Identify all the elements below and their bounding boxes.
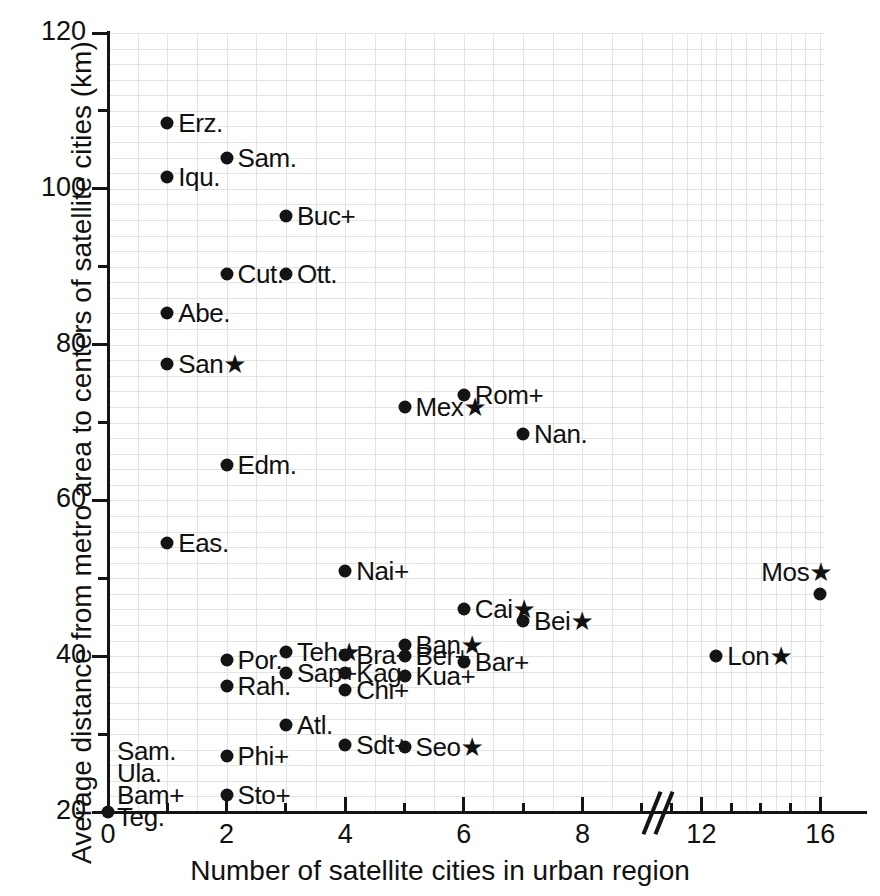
grid-line-horizontal [108, 454, 824, 455]
grid-line-horizontal [108, 49, 824, 50]
data-point-label: Nan. [534, 419, 587, 450]
grid-line-horizontal [108, 563, 824, 564]
data-point-label: Cut. [238, 259, 284, 290]
data-point[interactable] [517, 615, 530, 628]
data-point[interactable] [339, 564, 352, 577]
data-point[interactable] [279, 210, 292, 223]
data-point[interactable] [339, 684, 352, 697]
x-tick-major [344, 797, 347, 812]
x-tick-major [581, 797, 584, 812]
scatter-chart: Erz.Sam.Iqu.Buc+Cut.Ott.Abe.San★Rom+Mex★… [0, 0, 880, 896]
data-point[interactable] [220, 749, 233, 762]
data-point[interactable] [339, 667, 352, 680]
x-tick-minor [284, 803, 287, 812]
grid-lines [108, 33, 824, 812]
x-tick-label: 6 [424, 819, 504, 850]
x-tick-minor [789, 803, 792, 812]
x-axis-line [107, 811, 867, 814]
grid-line-horizontal [108, 282, 824, 283]
data-point[interactable] [220, 654, 233, 667]
data-point[interactable] [339, 739, 352, 752]
grid-line-horizontal [108, 625, 824, 626]
data-point-label: Erz. [178, 107, 223, 138]
y-axis-title: Average distance from metro area to cent… [66, 64, 98, 864]
data-point[interactable] [220, 679, 233, 692]
data-point-label: Iqu. [178, 162, 220, 193]
grid-line-horizontal [108, 594, 824, 595]
x-tick-label: 8 [542, 819, 622, 850]
x-axis-title: Number of satellite cities in urban regi… [0, 855, 880, 887]
y-tick-minor [98, 421, 109, 424]
x-tick-label: 12 [661, 819, 741, 850]
y-tick-minor [98, 733, 109, 736]
y-tick-minor [98, 265, 109, 268]
grid-line-horizontal [108, 33, 824, 34]
data-point-label: Nai+ [356, 555, 409, 586]
x-tick-major [225, 797, 228, 812]
data-point-label: Kua+ [416, 660, 476, 691]
data-point-label: Sam. [238, 142, 297, 173]
data-point[interactable] [161, 537, 174, 550]
data-point[interactable] [220, 268, 233, 281]
data-point-label: Abe. [178, 298, 230, 329]
grid-line-horizontal [108, 251, 824, 252]
data-point[interactable] [814, 587, 827, 600]
data-point-label: Bar+ [475, 647, 529, 678]
grid-line-horizontal [108, 329, 824, 330]
grid-line-horizontal [108, 703, 824, 704]
grid-line-horizontal [108, 796, 824, 797]
x-tick-major [819, 797, 822, 812]
data-point[interactable] [279, 268, 292, 281]
x-tick-label: 2 [187, 819, 267, 850]
x-tick-minor [166, 803, 169, 812]
data-point[interactable] [220, 151, 233, 164]
grid-line-horizontal [108, 578, 824, 579]
grid-line-horizontal [108, 765, 824, 766]
data-point[interactable] [161, 307, 174, 320]
data-point-label: Lon★ [727, 641, 792, 672]
plot-area: Erz.Sam.Iqu.Buc+Cut.Ott.Abe.San★Rom+Mex★… [108, 33, 824, 812]
data-point[interactable] [161, 171, 174, 184]
grid-line-horizontal [108, 516, 824, 517]
grid-line-horizontal [108, 485, 824, 486]
x-tick-label: 4 [305, 819, 385, 850]
data-point[interactable] [398, 740, 411, 753]
data-point-label: Bei★ [534, 606, 593, 637]
grid-line-horizontal [108, 64, 824, 65]
grid-line-horizontal [108, 158, 824, 159]
data-point-label: Eas. [178, 528, 228, 559]
data-point-label: Rah. [238, 670, 291, 701]
x-tick-major [462, 797, 465, 812]
grid-line-horizontal [108, 204, 824, 205]
data-point[interactable] [161, 358, 174, 371]
grid-line-horizontal [108, 781, 824, 782]
grid-line-horizontal [108, 236, 824, 237]
grid-line-horizontal [108, 345, 824, 346]
data-point-label: Phi+ [238, 740, 289, 771]
grid-line-horizontal [108, 142, 824, 143]
y-tick-major [92, 32, 109, 35]
y-tick-minor [98, 109, 109, 112]
data-point-label: Mex★ [416, 391, 487, 422]
grid-line-horizontal [108, 423, 824, 424]
data-point-label: Ott. [297, 259, 337, 290]
data-point[interactable] [161, 116, 174, 129]
data-point[interactable] [457, 603, 470, 616]
x-tick-minor [759, 803, 762, 812]
data-point-label: Chi+ [356, 675, 409, 706]
data-point-label: Sto+ [238, 779, 291, 810]
data-point[interactable] [279, 718, 292, 731]
x-tick-minor [403, 803, 406, 812]
y-tick-minor [98, 577, 109, 580]
data-point[interactable] [398, 400, 411, 413]
x-tick-minor [670, 803, 673, 812]
x-tick-major [107, 797, 110, 812]
grid-line-horizontal [108, 500, 824, 501]
data-point[interactable] [517, 428, 530, 441]
data-point-label: Atl. [297, 709, 333, 740]
data-point-label: Buc+ [297, 201, 355, 232]
grid-line-horizontal [108, 267, 824, 268]
data-point[interactable] [710, 650, 723, 663]
grid-line-horizontal [108, 95, 824, 96]
data-point[interactable] [220, 459, 233, 472]
